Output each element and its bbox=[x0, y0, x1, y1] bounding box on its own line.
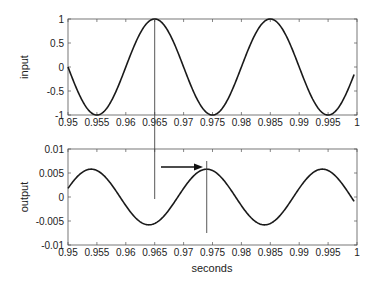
x-tick-label: 0.965 bbox=[142, 247, 167, 258]
x-tick-label: 0.985 bbox=[258, 247, 283, 258]
figure: 0.950.9550.960.9650.970.9750.980.9850.99… bbox=[0, 0, 376, 287]
y-tick-label: 0.01 bbox=[45, 144, 65, 155]
input-ylabel: input bbox=[18, 55, 30, 79]
y-tick-label: -0.005 bbox=[36, 216, 65, 227]
y-tick-label: -1 bbox=[55, 110, 64, 121]
y-tick-label: 0.5 bbox=[50, 38, 64, 49]
output-axes: 0.950.9550.960.9650.970.9750.980.9850.99… bbox=[36, 144, 361, 259]
x-tick-label: 0.995 bbox=[316, 247, 341, 258]
x-tick-label: 0.955 bbox=[84, 247, 109, 258]
x-tick-label: 0.98 bbox=[232, 117, 252, 128]
x-tick-label: 0.97 bbox=[174, 117, 194, 128]
x-tick-label: 0.99 bbox=[289, 117, 309, 128]
y-tick-label: -0.01 bbox=[41, 240, 64, 251]
y-tick-label: 0 bbox=[58, 192, 64, 203]
x-tick-label: 0.975 bbox=[200, 247, 225, 258]
y-tick-label: -0.5 bbox=[47, 86, 65, 97]
x-tick-label: 0.99 bbox=[289, 247, 309, 258]
seconds-xlabel: seconds bbox=[192, 262, 233, 274]
output-ylabel: output bbox=[18, 182, 30, 213]
x-tick-label: 0.955 bbox=[84, 117, 109, 128]
x-tick-label: 0.975 bbox=[200, 117, 225, 128]
x-tick-label: 0.98 bbox=[232, 247, 252, 258]
x-tick-label: 0.96 bbox=[116, 247, 136, 258]
x-tick-label: 0.985 bbox=[258, 117, 283, 128]
y-tick-label: 0.005 bbox=[39, 168, 64, 179]
y-tick-label: 1 bbox=[58, 14, 64, 25]
x-tick-label: 0.995 bbox=[316, 117, 341, 128]
y-tick-label: 0 bbox=[58, 62, 64, 73]
input-axes: 0.950.9550.960.9650.970.9750.980.9850.99… bbox=[47, 14, 360, 129]
axes-frame bbox=[68, 149, 357, 245]
x-tick-label: 0.97 bbox=[174, 247, 194, 258]
x-tick-label: 0.96 bbox=[116, 117, 136, 128]
x-tick-label: 1 bbox=[354, 117, 360, 128]
x-tick-label: 1 bbox=[354, 247, 360, 258]
